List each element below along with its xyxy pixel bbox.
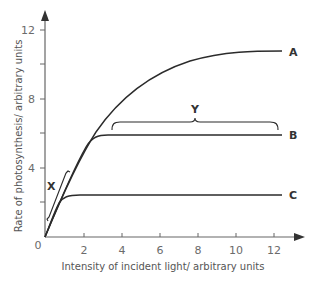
x-tick-label-12: 12 <box>267 244 281 257</box>
y-tick-label-12: 12 <box>21 24 35 37</box>
origin-label: 0 <box>35 239 42 252</box>
brace-y <box>112 118 278 130</box>
y-axis-arrow-icon <box>41 10 49 21</box>
x-tick-label-2: 2 <box>81 244 88 257</box>
y-tick-label-8: 8 <box>28 93 35 106</box>
x-tick-label-10: 10 <box>229 244 243 257</box>
curve-c-label: C <box>289 189 297 202</box>
curve-b <box>45 135 282 237</box>
curve-c <box>45 195 282 237</box>
curve-b-label: B <box>289 129 297 142</box>
x-tick-label-4: 4 <box>119 244 126 257</box>
x-tick-label-6: 6 <box>157 244 164 257</box>
y-ticks <box>40 30 45 202</box>
x-axis-arrow-icon <box>294 233 305 241</box>
curve-a-label: A <box>289 46 298 59</box>
curves <box>45 51 282 237</box>
x-tick-label-8: 8 <box>195 244 202 257</box>
y-tick-label-4: 4 <box>28 162 35 175</box>
y-axis-title: Rate of photosynthesis/ arbitrary units <box>13 40 24 233</box>
curve-a <box>45 51 282 237</box>
annotation-y-label: Y <box>190 103 200 116</box>
chart-canvas: 0 2 4 6 8 10 12 4 8 12 Intensity of inci… <box>0 0 316 285</box>
x-axis-title: Intensity of incident light/ arbitrary u… <box>62 261 265 272</box>
annotation-x-label: X <box>47 180 56 193</box>
